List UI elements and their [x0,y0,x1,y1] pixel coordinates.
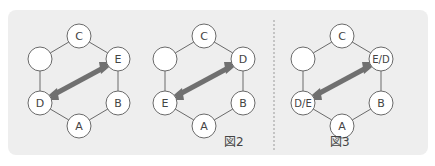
svg-text:D: D [36,97,44,110]
ring-diagram-1: C E D B A [28,24,130,138]
svg-text:B: B [239,97,247,110]
node-upper-left [28,47,52,71]
svg-text:C: C [200,30,208,43]
node-lower-left: D/E [291,91,315,115]
node-top: C [192,24,216,48]
node-top: C [67,24,91,48]
ring-diagram-2: C D E B A [153,24,255,138]
svg-text:A: A [200,120,208,133]
node-lower-right: B [231,91,255,115]
node-lower-right: B [369,91,393,115]
svg-text:E: E [162,97,169,110]
node-bottom: A [67,114,91,138]
node-upper-right: D [231,47,255,71]
svg-text:A: A [75,120,83,133]
svg-text:C: C [338,30,346,43]
node-lower-right: B [106,91,130,115]
node-lower-left: E [153,91,177,115]
node-bottom: A [192,114,216,138]
svg-text:E/D: E/D [372,54,390,65]
svg-text:B: B [114,97,122,110]
node-upper-left [153,47,177,71]
svg-text:C: C [75,30,83,43]
diagram-canvas: C E D B A C D E B A C E/D D/E B A [0,0,435,166]
node-upper-right: E/D [369,47,393,71]
caption-fig3: 図3 [330,132,350,149]
svg-text:D: D [239,53,247,66]
svg-text:D/E: D/E [294,98,311,109]
ring-diagram-3: C E/D D/E B A [291,24,393,138]
node-top: C [330,24,354,48]
caption-fig2: 図2 [224,132,244,149]
node-lower-left: D [28,91,52,115]
node-upper-left [291,47,315,71]
node-upper-right: E [106,47,130,71]
svg-text:E: E [115,53,122,66]
svg-text:B: B [377,97,385,110]
